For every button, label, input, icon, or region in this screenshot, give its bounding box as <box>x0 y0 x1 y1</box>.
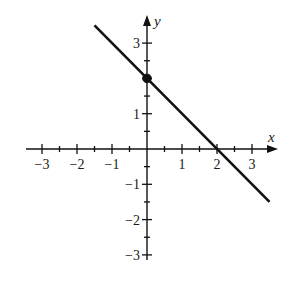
y-axis-arrow-icon <box>143 15 151 26</box>
x-tick-label: 1 <box>179 157 186 172</box>
coordinate-plane: −3−2−1123−3−2−113 x y <box>0 0 294 284</box>
x-tick-label: 3 <box>249 157 256 172</box>
x-axis-arrow-icon <box>267 145 278 153</box>
y-tick-label: 3 <box>133 36 140 51</box>
x-tick-label: −3 <box>35 157 50 172</box>
intercept-point <box>143 74 152 83</box>
y-tick-label: −3 <box>125 248 140 263</box>
y-axis-label: y <box>152 13 161 29</box>
y-tick-label: −2 <box>125 213 140 228</box>
y-tick-label: 1 <box>133 107 140 122</box>
highlighted-points <box>143 74 152 83</box>
x-axis-label: x <box>267 129 275 145</box>
line-series <box>95 25 270 202</box>
x-tick-label: 2 <box>214 157 221 172</box>
x-tick-label: −1 <box>105 157 120 172</box>
series-line <box>95 25 270 202</box>
y-tick-label: −1 <box>125 177 140 192</box>
x-tick-label: −2 <box>70 157 85 172</box>
